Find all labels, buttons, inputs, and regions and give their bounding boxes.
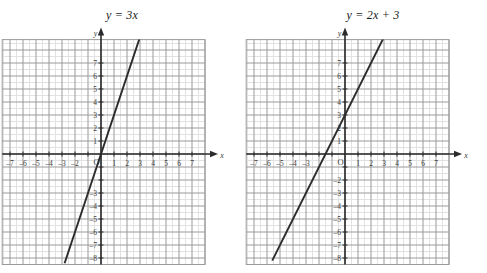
y-tick-label: 6: [337, 72, 341, 81]
y-tick-label: –2: [333, 176, 342, 185]
x-tick-label: 7: [190, 159, 194, 168]
y-tick-label: 1: [337, 137, 341, 146]
x-tick-label: 6: [421, 159, 425, 168]
origin-label: O: [337, 157, 343, 167]
y-tick-label: 3: [337, 111, 341, 120]
y-axis-name-label: y: [93, 29, 98, 38]
x-tick-label: –6: [18, 159, 27, 168]
y-tick-label: –6: [89, 228, 98, 237]
y-tick-label: –7: [89, 241, 98, 250]
x-tick-label: 7: [434, 159, 438, 168]
y-tick-label: 2: [93, 124, 97, 133]
y-tick-label: –7: [333, 241, 342, 250]
x-tick-label: 3: [382, 159, 386, 168]
x-axis-arrowhead: [210, 151, 218, 157]
y-axis-arrowhead: [342, 28, 348, 36]
y-tick-label: –5: [333, 215, 342, 224]
chart-left-plot: –7–6–5–4–3–212345677654321–3–4–5–6–7–8Ox…: [0, 0, 244, 273]
x-tick-label: 6: [177, 159, 181, 168]
major-gridlines: [246, 40, 449, 265]
y-tick-label: 5: [93, 85, 97, 94]
x-tick-label: 3: [138, 159, 142, 168]
x-tick-label: 4: [395, 159, 399, 168]
y-tick-label: –8: [333, 254, 342, 263]
x-axis-arrowhead: [454, 151, 462, 157]
y-tick-label: 7: [337, 59, 341, 68]
y-tick-label: –3: [333, 189, 342, 198]
y-axis-name-label: y: [337, 29, 342, 38]
x-tick-label: –3: [57, 159, 66, 168]
y-tick-label: –6: [333, 228, 342, 237]
x-tick-label: –6: [262, 159, 271, 168]
y-tick-label: –5: [89, 215, 98, 224]
x-tick-label: –5: [275, 159, 284, 168]
y-tick-label: 4: [93, 98, 97, 107]
y-tick-label: –4: [333, 202, 342, 211]
x-tick-label: –4: [44, 159, 53, 168]
x-tick-label: –3: [301, 159, 310, 168]
graph-panel-right: y = 2x + 3 –7–6–5–4–312345677654321–2–3–…: [243, 0, 487, 273]
x-tick-label: 2: [369, 159, 373, 168]
chart-right-plot: –7–6–5–4–312345677654321–2–3–4–5–6–7–8Ox…: [243, 0, 487, 273]
graph-panel-left: y = 3x –7–6–5–4–3–212345677654321–3–4–5–…: [0, 0, 244, 273]
y-tick-label: 5: [337, 85, 341, 94]
x-tick-label: –4: [288, 159, 297, 168]
plot-frame: [2, 40, 205, 265]
y-tick-label: 3: [93, 111, 97, 120]
two-graph-figure: y = 3x –7–6–5–4–3–212345677654321–3–4–5–…: [0, 0, 487, 273]
plot-frame: [246, 40, 449, 265]
major-gridlines: [2, 40, 205, 265]
x-tick-label: 1: [356, 159, 360, 168]
x-tick-label: 4: [151, 159, 155, 168]
x-tick-label: 1: [112, 159, 116, 168]
x-tick-label: –2: [70, 159, 79, 168]
x-tick-label: –5: [31, 159, 40, 168]
y-tick-label: 7: [93, 59, 97, 68]
y-axis-arrowhead: [98, 28, 104, 36]
x-tick-label: –7: [249, 159, 258, 168]
x-tick-label: –7: [5, 159, 14, 168]
x-tick-label: 5: [408, 159, 412, 168]
x-tick-label: 2: [125, 159, 129, 168]
x-axis-name-label: x: [219, 151, 224, 160]
y-tick-label: –4: [89, 202, 98, 211]
minor-gridlines: [246, 40, 449, 265]
y-tick-label: –8: [89, 254, 98, 263]
x-tick-label: 5: [164, 159, 168, 168]
x-axis-name-label: x: [463, 151, 468, 160]
y-tick-label: 6: [93, 72, 97, 81]
minor-gridlines: [2, 40, 205, 265]
y-tick-label: 4: [337, 98, 341, 107]
y-tick-label: 1: [93, 137, 97, 146]
